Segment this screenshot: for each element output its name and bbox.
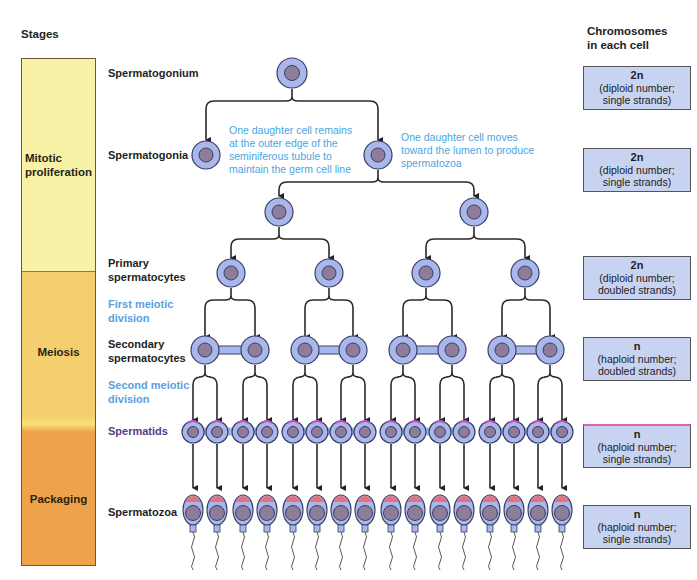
spermatogenesis-diagram [0, 0, 697, 580]
